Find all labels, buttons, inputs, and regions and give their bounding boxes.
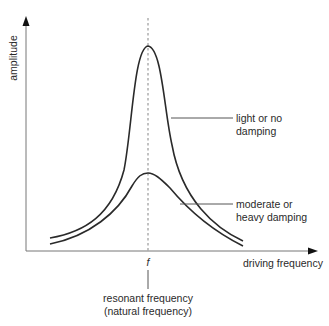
- x-axis-arrow-icon: [308, 248, 318, 255]
- y-axis: [23, 16, 30, 251]
- resonance-marker: f: [147, 256, 151, 268]
- resonance-label-line1: resonant frequency: [103, 292, 194, 304]
- heavy-damping-label-line2: heavy damping: [236, 211, 307, 223]
- x-axis-label: driving frequency: [243, 257, 324, 269]
- resonance-diagram: amplitude driving frequency f resonant f…: [0, 0, 329, 326]
- y-axis-arrow-icon: [23, 16, 30, 26]
- light-damping-curve: [50, 46, 243, 241]
- resonance-label-line2: (natural frequency): [104, 305, 192, 317]
- light-damping-label-line2: damping: [236, 125, 276, 137]
- y-axis-label: amplitude: [7, 35, 19, 81]
- x-axis: [26, 248, 318, 255]
- heavy-damping-curve: [50, 173, 243, 246]
- heavy-damping-label-line1: moderate or: [236, 198, 293, 210]
- light-damping-label-line1: light or no: [236, 112, 282, 124]
